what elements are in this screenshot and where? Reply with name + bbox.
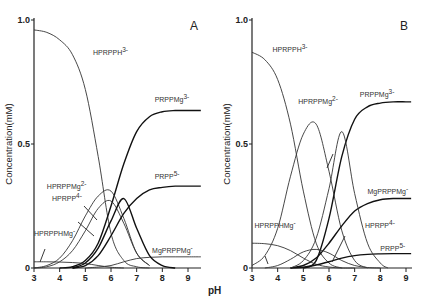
series-label: HPRPPMg2- [298,95,338,106]
panel-label: A [190,19,198,33]
panel-a: 345678900.51.0Concentration(mM)AHPRPPH3-… [3,15,201,283]
annotation-arrow [327,154,333,168]
x-tick-label: 3 [31,273,36,283]
annotation-arrow [40,249,45,262]
series-label: PRPPMg3- [360,88,395,99]
y-tick-label: 0 [243,263,248,273]
x-tick-label: 7 [134,273,139,283]
x-tick-label: 6 [108,273,113,283]
series-label: HPRPP4- [365,219,395,229]
y-tick-label: 0 [25,263,30,273]
y-axis-label: Concentration(mM) [3,103,14,184]
x-tick-label: 8 [378,273,383,283]
series-label: HPRPPH3- [93,46,128,56]
x-tick-label: 5 [83,273,88,283]
series-label: MgPRPPMg- [368,185,409,196]
x-tick-label: 6 [326,273,331,283]
series-line-mgprppmg- [291,198,412,268]
series-line-hprppmg2- [252,122,368,268]
series-label: PRPPMg3- [155,93,190,104]
panel-b: 345678900.51.0Concentration(mM)BHPRPPH3-… [221,15,412,283]
series-line-prppmg3- [60,110,201,268]
series-line-mgprppmg- [85,257,200,268]
annotation-arrow [265,256,268,264]
y-tick-label: 1.0 [17,15,30,25]
annotation-arrow [78,222,94,236]
y-axis-label: Concentration(mM) [221,103,232,184]
series-line-prppmg3- [303,102,411,268]
x-tick-label: 4 [275,273,280,283]
y-tick-label: 0.5 [235,139,248,149]
y-tick-label: 0.5 [17,139,30,149]
x-axis-label: pH [208,285,221,296]
series-label: HPRPPHMg- [255,219,296,230]
series-label: HPRPPMg2- [47,180,87,191]
x-tick-label: 3 [249,273,254,283]
series-label: PRPP5- [155,170,180,180]
x-tick-label: 8 [160,273,165,283]
series-label: HPRPP4- [52,192,82,202]
x-tick-label: 9 [403,273,408,283]
series-label: HPRPPH3- [273,43,308,53]
series-line-hprpph3- [252,52,342,268]
series-label: PRPP5- [380,242,405,252]
x-tick-label: 9 [185,273,190,283]
figure: 345678900.51.0Concentration(mM)AHPRPPH3-… [0,0,429,299]
series-label: HPRPPHMg- [34,227,75,238]
series-label: MgPRPPMg- [152,244,193,255]
x-tick-label: 5 [301,273,306,283]
y-tick-label: 1.0 [235,15,248,25]
x-tick-label: 7 [352,273,357,283]
x-tick-label: 4 [57,273,62,283]
panel-label: B [400,19,408,33]
